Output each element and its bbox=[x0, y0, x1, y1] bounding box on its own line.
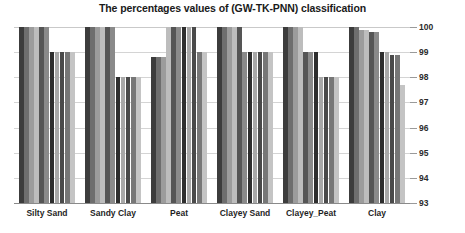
bar bbox=[197, 52, 202, 203]
x-axis-category-label: Sandy Clay bbox=[90, 208, 136, 218]
bar bbox=[227, 27, 232, 203]
bar bbox=[258, 52, 263, 203]
bar bbox=[34, 27, 39, 203]
bar bbox=[65, 52, 70, 203]
bar bbox=[161, 57, 166, 203]
y-axis-tick-label: 94 bbox=[419, 173, 428, 183]
bar bbox=[329, 77, 334, 203]
bar bbox=[349, 27, 354, 203]
bar bbox=[298, 27, 303, 203]
bar bbox=[24, 27, 29, 203]
bar bbox=[324, 77, 329, 203]
chart-container: The percentages values of (GW-TK-PNN) cl… bbox=[0, 0, 465, 233]
bar bbox=[55, 52, 60, 203]
bar bbox=[293, 27, 298, 203]
bar bbox=[400, 85, 405, 203]
bar bbox=[263, 52, 268, 203]
bar bbox=[374, 32, 379, 203]
bar bbox=[85, 27, 90, 203]
y-axis-tick-label: 95 bbox=[419, 148, 428, 158]
bar bbox=[151, 57, 156, 203]
bar bbox=[187, 27, 192, 203]
bar bbox=[126, 77, 131, 203]
bar bbox=[70, 52, 75, 203]
bar bbox=[319, 77, 324, 203]
bar bbox=[19, 27, 24, 203]
bar bbox=[359, 30, 364, 203]
bar bbox=[380, 52, 385, 203]
bar bbox=[242, 52, 247, 203]
y-tick-mark-99 bbox=[410, 52, 417, 53]
y-axis-tick-label: 93 bbox=[419, 198, 428, 208]
y-tick-mark-94 bbox=[410, 178, 417, 179]
x-axis-labels: Silty SandSandy ClayPeatClayey SandClaye… bbox=[14, 206, 410, 226]
bar bbox=[248, 52, 253, 203]
bar bbox=[156, 57, 161, 203]
bar bbox=[60, 52, 65, 203]
bar bbox=[176, 27, 181, 203]
y-axis-tick-label: 96 bbox=[419, 123, 428, 133]
bar bbox=[110, 27, 115, 203]
bar bbox=[29, 27, 34, 203]
bar bbox=[334, 77, 339, 203]
x-axis-category-label: Clay bbox=[368, 208, 386, 218]
x-axis-category-label: Silty Sand bbox=[26, 208, 67, 218]
bar bbox=[369, 32, 374, 203]
chart-title: The percentages values of (GW-TK-PNN) cl… bbox=[0, 2, 465, 14]
plot-area bbox=[14, 27, 410, 203]
bar bbox=[105, 27, 110, 203]
y-axis-tick-label: 100 bbox=[419, 22, 433, 32]
bar bbox=[303, 52, 308, 203]
bar bbox=[385, 52, 390, 203]
bar bbox=[288, 27, 293, 203]
bar bbox=[44, 27, 49, 203]
y-tick-mark-93 bbox=[410, 203, 417, 204]
bar bbox=[131, 77, 136, 203]
bar bbox=[121, 77, 126, 203]
y-axis-tick-label: 98 bbox=[419, 72, 428, 82]
x-axis-category-label: Clayey_Peat bbox=[286, 208, 336, 218]
bar bbox=[283, 27, 288, 203]
bar bbox=[166, 27, 171, 203]
y-axis-labels: 93949596979899100 bbox=[419, 27, 459, 203]
bar bbox=[364, 30, 369, 203]
bar bbox=[95, 27, 100, 203]
x-axis-category-label: Peat bbox=[170, 208, 188, 218]
bar bbox=[171, 27, 176, 203]
x-axis-category-label: Clayey Sand bbox=[220, 208, 271, 218]
bar bbox=[232, 27, 237, 203]
bar bbox=[202, 52, 207, 203]
bar bbox=[395, 55, 400, 203]
y-axis-tick-marks bbox=[410, 27, 417, 203]
bar bbox=[136, 77, 141, 203]
y-tick-mark-97 bbox=[410, 102, 417, 103]
bar bbox=[50, 52, 55, 203]
x-axis-line bbox=[14, 203, 410, 204]
bar bbox=[182, 27, 187, 203]
bar bbox=[390, 55, 395, 203]
y-tick-mark-100 bbox=[410, 27, 417, 28]
y-tick-mark-98 bbox=[410, 77, 417, 78]
y-tick-mark-95 bbox=[410, 153, 417, 154]
bar bbox=[308, 52, 313, 203]
bar bbox=[314, 52, 319, 203]
bar bbox=[100, 27, 105, 203]
bar-series-group bbox=[14, 27, 410, 203]
bar bbox=[222, 27, 227, 203]
bar bbox=[116, 77, 121, 203]
bar bbox=[354, 27, 359, 203]
bar bbox=[192, 27, 197, 203]
bar bbox=[90, 27, 95, 203]
y-tick-mark-96 bbox=[410, 128, 417, 129]
bar bbox=[253, 52, 258, 203]
bar bbox=[217, 27, 222, 203]
y-axis-tick-label: 99 bbox=[419, 47, 428, 57]
bar bbox=[237, 27, 242, 203]
y-axis-tick-label: 97 bbox=[419, 97, 428, 107]
bar bbox=[268, 52, 273, 203]
bar bbox=[39, 27, 44, 203]
